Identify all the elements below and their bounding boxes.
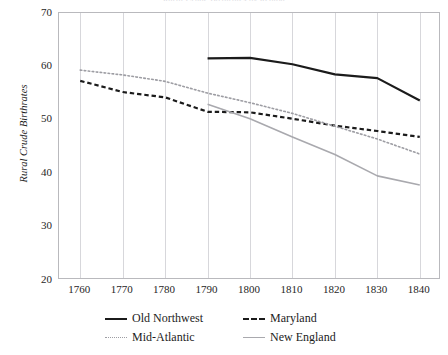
- chart-legend: Old Northwest Maryland Mid-Atlantic New …: [105, 309, 367, 349]
- x-tick-1840: 1840: [389, 284, 448, 295]
- legend-label: Old Northwest: [132, 309, 203, 327]
- series-line-maryland: [80, 81, 420, 137]
- dashed-dark-line-icon: [243, 312, 265, 324]
- y-tick-50: 50: [6, 113, 52, 124]
- legend-row: Old Northwest Maryland: [105, 309, 367, 327]
- y-tick-60: 60: [6, 60, 52, 71]
- chart-figure: Rural Crude Birthrates by Region Rural C…: [0, 0, 448, 355]
- y-tick-20: 20: [6, 274, 52, 285]
- y-tick-70: 70: [6, 7, 52, 18]
- x-axis-tick-labels: 176017701780179018001810182018301840: [58, 284, 440, 300]
- legend-row: Mid-Atlantic New England: [105, 328, 367, 346]
- legend-item-old-northwest[interactable]: Old Northwest: [105, 309, 243, 327]
- legend-item-maryland[interactable]: Maryland: [243, 309, 367, 327]
- solid-gray-line-icon: [243, 331, 265, 343]
- series-line-mid-atlantic: [80, 70, 420, 154]
- y-tick-40: 40: [6, 167, 52, 178]
- series-line-new-england: [208, 104, 420, 185]
- plot-area: [58, 12, 440, 279]
- chart-title: Rural Crude Birthrates by Region: [0, 0, 448, 1]
- legend-item-mid-atlantic[interactable]: Mid-Atlantic: [105, 328, 243, 346]
- legend-label: Maryland: [270, 309, 317, 327]
- y-axis-tick-labels: 203040506070: [0, 0, 52, 291]
- series-lines: [59, 13, 441, 280]
- solid-dark-line-icon: [105, 312, 127, 324]
- legend-label: Mid-Atlantic: [132, 328, 195, 346]
- series-line-old-northwest: [208, 58, 420, 101]
- legend-label: New England: [270, 328, 336, 346]
- y-tick-30: 30: [6, 220, 52, 231]
- legend-item-new-england[interactable]: New England: [243, 328, 367, 346]
- dotted-gray-line-icon: [105, 331, 127, 343]
